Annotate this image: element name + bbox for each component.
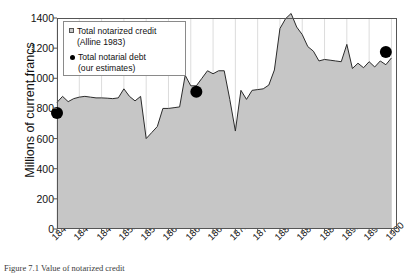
legend-label-line2: (our estimates) (78, 63, 181, 74)
legend-label-line1: Total notarial debt (78, 52, 146, 62)
square-swatch-icon (69, 28, 74, 33)
legend: Total notarized credit (Alline 1983) Tot… (63, 21, 186, 76)
legend-label-line1: Total notarized credit (77, 26, 156, 36)
data-point-notarial-debt (380, 46, 392, 58)
data-point-notarial-debt (190, 86, 202, 98)
legend-item-notarial-debt: Total notarial debt (our estimates) (69, 52, 181, 74)
figure-caption: Figure 7.1 Value of notarized credit (4, 263, 409, 273)
figure-container: Millions of current francs 0200400600800… (0, 0, 413, 273)
legend-label-line2: (Alline 1983) (77, 37, 181, 48)
dot-swatch-icon (70, 55, 75, 60)
legend-item-notarized-credit: Total notarized credit (Alline 1983) (69, 26, 181, 48)
